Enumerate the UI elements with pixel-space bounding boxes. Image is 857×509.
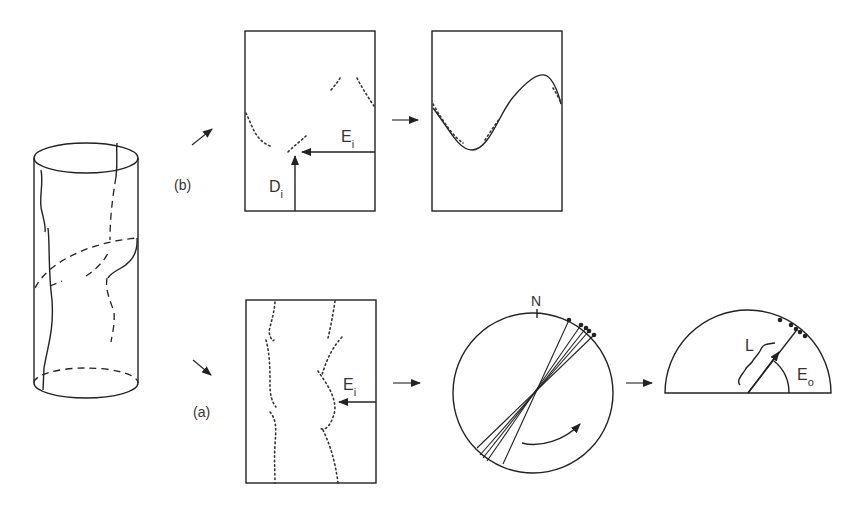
rotation-arrow [522,424,580,444]
panel-b-unrolled-box: Ei Di [245,31,375,211]
e-i-label-a: Ei [343,376,356,398]
arrow-to-panel-a [193,360,211,375]
stereonet: N [453,293,613,473]
borehole-cylinder [34,143,138,398]
arrow-to-panel-b [192,129,212,145]
panel-label-b: (b) [174,177,191,193]
angle-arc [774,361,789,393]
figure-canvas: (b) (a) Ei Di Ei [0,0,857,509]
north-label: N [531,293,541,309]
d-i-label: Di [269,178,283,200]
half-circle-projection: L Eo [665,310,831,393]
sinusoid-curve [433,75,561,150]
plane-lines [477,320,594,464]
panel-label-a: (a) [193,404,210,420]
panel-a-unrolled-box: Ei [246,300,376,483]
l-label: L [745,337,754,354]
e-i-label: Ei [341,128,354,150]
e-o-label: Eo [797,366,814,388]
panel-b-sinusoid-box [432,31,562,211]
